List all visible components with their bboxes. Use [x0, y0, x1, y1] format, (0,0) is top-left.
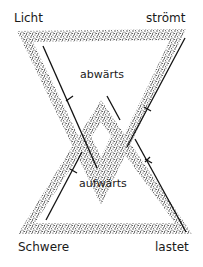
label-aufwaerts: aufwärts [79, 178, 127, 189]
flow-line-top-right [127, 38, 185, 147]
label-schwere: Schwere [18, 241, 69, 253]
tick-mark [66, 96, 73, 101]
diagram-canvas [0, 0, 203, 267]
label-lastet: lastet [155, 241, 189, 253]
label-stroemt: strömt [146, 12, 185, 24]
label-abwaerts: abwärts [80, 69, 124, 80]
label-licht: Licht [14, 12, 43, 24]
flow-line-inner-lower [135, 139, 186, 232]
flow-line-top-left [43, 46, 97, 168]
